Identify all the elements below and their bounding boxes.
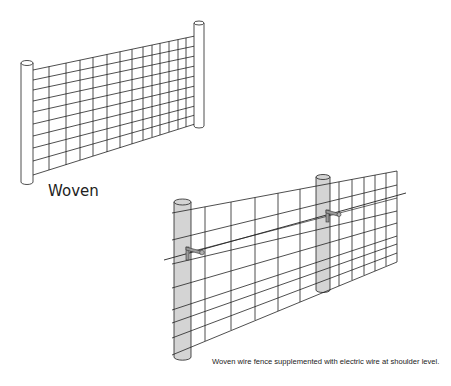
woven-horizontal-wires xyxy=(33,36,195,175)
woven-fence xyxy=(21,21,204,185)
electric-vertical-stays xyxy=(205,171,397,341)
woven-label: Woven xyxy=(48,182,99,200)
woven-right-post xyxy=(194,21,204,128)
electric-horizontal-wires xyxy=(172,171,397,355)
electric-wire xyxy=(164,193,406,260)
electric-fence xyxy=(164,171,406,360)
woven-left-post xyxy=(21,61,33,185)
electric-right-post xyxy=(316,175,330,293)
fence-diagram: Woven Woven wire fence supplemented with… xyxy=(0,0,451,386)
electric-fence-caption: Woven wire fence supplemented with elect… xyxy=(212,357,439,366)
electric-wire-secondary xyxy=(190,198,397,252)
